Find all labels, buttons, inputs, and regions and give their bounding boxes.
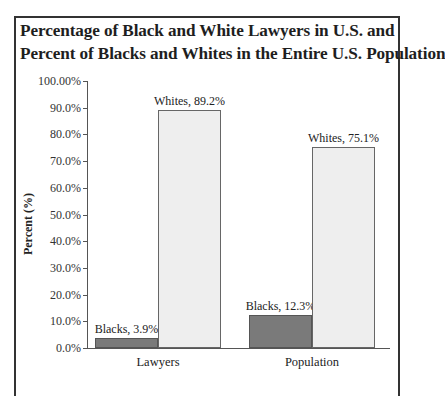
bar-data-label: Whites, 75.1% xyxy=(308,131,379,146)
y-axis-line xyxy=(87,81,88,349)
y-tick xyxy=(83,108,87,109)
x-axis-line xyxy=(87,348,390,349)
y-tick-label: 70.0% xyxy=(50,154,81,169)
y-axis-label: Percent (%) xyxy=(21,193,36,255)
y-tick-label: 0.0% xyxy=(56,341,81,356)
y-tick xyxy=(83,81,87,82)
y-tick xyxy=(83,295,87,296)
y-tick-label: 50.0% xyxy=(50,208,81,223)
y-tick-label: 60.0% xyxy=(50,181,81,196)
y-tick xyxy=(83,161,87,162)
bar-data-label: Whites, 89.2% xyxy=(154,94,225,109)
bar-whites-lawyers xyxy=(158,110,221,348)
y-tick xyxy=(83,348,87,349)
y-tick xyxy=(83,188,87,189)
y-tick xyxy=(83,215,87,216)
y-tick-label: 100.00% xyxy=(38,74,81,89)
y-tick-label: 90.0% xyxy=(50,101,81,116)
y-tick-label: 30.0% xyxy=(50,261,81,276)
chart-title: Percentage of Black and White Lawyers in… xyxy=(20,19,400,65)
chart-title-line-2: Percent of Blacks and Whites in the Enti… xyxy=(20,42,400,65)
y-tick xyxy=(83,268,87,269)
bar-data-label: Blacks, 12.3% xyxy=(246,299,316,314)
y-tick xyxy=(83,321,87,322)
y-tick xyxy=(83,134,87,135)
y-tick xyxy=(83,241,87,242)
x-category-label: Lawyers xyxy=(136,355,179,370)
y-tick-label: 40.0% xyxy=(50,234,81,249)
bar-whites-population xyxy=(312,147,375,348)
x-category-label: Population xyxy=(285,355,339,370)
bar-data-label: Blacks, 3.9% xyxy=(95,322,159,337)
y-tick-label: 80.0% xyxy=(50,127,81,142)
y-tick-label: 10.0% xyxy=(50,314,81,329)
bar-blacks-population xyxy=(249,315,312,348)
chart-title-line-1: Percentage of Black and White Lawyers in… xyxy=(20,19,400,42)
bar-blacks-lawyers xyxy=(95,338,158,348)
y-tick-label: 20.0% xyxy=(50,288,81,303)
